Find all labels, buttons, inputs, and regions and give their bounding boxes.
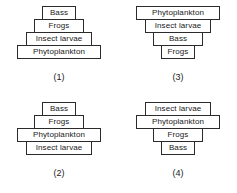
tier-stack: Insect larvae Phytoplankton Frogs Bass: [119, 103, 237, 155]
tier-stack: Phytoplankton Insect larvae Bass Frogs: [119, 7, 237, 59]
tier-box: Frogs: [34, 19, 84, 33]
tier-box: Frogs: [34, 115, 84, 129]
tier-stack: Bass Frogs Insect larvae Phytoplankton: [0, 7, 118, 59]
diagram-caption: (3): [119, 72, 237, 82]
diagram-caption: (1): [0, 72, 118, 82]
tier-box: Insect larvae: [26, 32, 92, 46]
tier-box: Frogs: [161, 45, 195, 59]
tier-box: Insect larvae: [145, 19, 211, 33]
pyramid-diagram-4: Insect larvae Phytoplankton Frogs Bass (…: [119, 96, 237, 192]
tier-box: Frogs: [153, 128, 203, 142]
diagram-caption: (2): [0, 168, 118, 178]
tier-box: Bass: [161, 141, 195, 155]
tier-box: Phytoplankton: [136, 6, 220, 20]
pyramid-diagram-1: Bass Frogs Insect larvae Phytoplankton (…: [0, 0, 118, 96]
tier-box: Insect larvae: [145, 102, 211, 116]
tier-stack: Bass Frogs Phytoplankton Insect larvae: [0, 103, 118, 155]
pyramid-diagram-2: Bass Frogs Phytoplankton Insect larvae (…: [0, 96, 118, 192]
pyramid-figure: Bass Frogs Insect larvae Phytoplankton (…: [0, 0, 237, 193]
diagram-caption: (4): [119, 168, 237, 178]
tier-box: Phytoplankton: [136, 115, 220, 129]
tier-box: Insect larvae: [26, 141, 92, 155]
tier-box: Bass: [153, 32, 203, 46]
tier-box: Phytoplankton: [17, 128, 101, 142]
tier-box: Bass: [42, 6, 76, 20]
tier-box: Bass: [42, 102, 76, 116]
pyramid-diagram-3: Phytoplankton Insect larvae Bass Frogs (…: [119, 0, 237, 96]
tier-box: Phytoplankton: [17, 45, 101, 59]
